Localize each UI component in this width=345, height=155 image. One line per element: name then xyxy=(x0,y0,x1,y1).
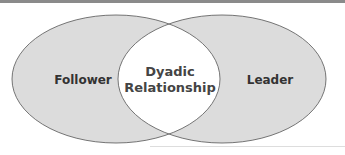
venn-diagram: Follower Leader Dyadic Relationship xyxy=(0,0,345,155)
follower-label: Follower xyxy=(48,73,118,87)
leader-label: Leader xyxy=(240,73,300,87)
bottom-rule xyxy=(150,146,345,147)
dyadic-label: Dyadic xyxy=(130,64,210,79)
relationship-label: Relationship xyxy=(120,80,220,95)
